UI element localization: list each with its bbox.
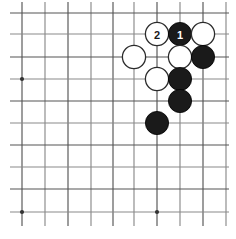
stone-black-r5c6[interactable] — [145, 111, 168, 134]
white-stone-disc — [145, 67, 168, 90]
star-point — [155, 210, 159, 214]
stone-black-r2c8[interactable] — [191, 45, 214, 68]
go-board-diagram: 21 — [0, 0, 236, 239]
stone-white-2[interactable]: 2 — [145, 22, 168, 45]
black-stone-disc — [145, 111, 168, 134]
stone-white-r1c8[interactable] — [191, 22, 214, 45]
stone-black-r4c7[interactable] — [168, 89, 191, 112]
star-point — [20, 210, 24, 214]
stone-black-1[interactable]: 1 — [168, 22, 191, 45]
white-stone-disc — [168, 45, 191, 68]
black-stone-disc — [168, 89, 191, 112]
star-point — [20, 77, 24, 81]
white-stone-disc — [122, 45, 145, 68]
black-stone-disc — [168, 67, 191, 90]
white-stone-disc — [191, 22, 214, 45]
stone-white-r2c5[interactable] — [122, 45, 145, 68]
stone-black-r3c7[interactable] — [168, 67, 191, 90]
stone-move-number: 2 — [154, 29, 160, 41]
stone-white-r2c7[interactable] — [168, 45, 191, 68]
black-stone-disc — [191, 45, 214, 68]
stone-move-number: 1 — [177, 29, 183, 41]
stone-white-r3c6[interactable] — [145, 67, 168, 90]
go-board-canvas: 21 — [0, 0, 236, 239]
